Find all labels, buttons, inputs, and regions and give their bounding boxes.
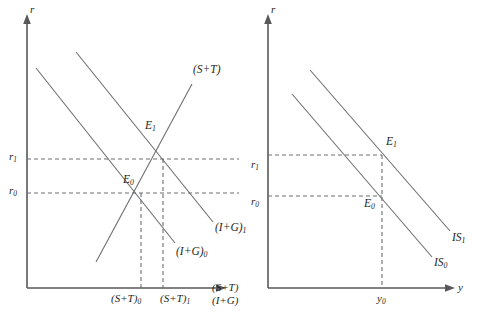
left-tick-r0: r0 xyxy=(9,185,17,198)
left-y-axis-arrowhead xyxy=(23,14,31,24)
right-curve-label-is-0: IS0 xyxy=(434,257,448,270)
right-curve-label-is-1: IS1 xyxy=(452,232,466,245)
diagram-vector-layer xyxy=(0,0,485,317)
right-x-axis-arrowhead xyxy=(445,284,455,292)
left-curve-label-i-plus-g-0: (I+G)0 xyxy=(176,246,207,259)
right-panel-guides xyxy=(268,155,382,288)
right-tick-r1: r1 xyxy=(251,159,259,172)
left-panel-curves xyxy=(36,52,213,262)
left-y-axis-label: r xyxy=(30,4,34,15)
left-tick-st1: (S+T)1 xyxy=(160,293,190,306)
right-panel-curves xyxy=(292,70,450,257)
right-y-axis-label: r xyxy=(271,4,275,15)
left-curve-label-i-plus-g-1: (I+G)1 xyxy=(215,222,246,235)
curve-s-plus-t xyxy=(96,84,192,262)
left-x-axis-label-line1: (S+T) xyxy=(212,282,238,293)
left-equilibrium-e1: E1 xyxy=(145,120,156,133)
right-y-axis-arrowhead xyxy=(264,14,272,24)
left-x-axis-label-line2: (I+G) xyxy=(212,295,238,306)
right-x-axis-label: y xyxy=(458,282,463,293)
curve-i-plus-g-1 xyxy=(76,52,213,222)
figure-canvas: r r1 r0 (S+T)0 (S+T)1 (S+T) (I+G) E1 E0 … xyxy=(0,0,485,317)
right-equilibrium-e1: E1 xyxy=(386,136,397,149)
right-tick-y0: y0 xyxy=(377,293,386,306)
right-tick-r0: r0 xyxy=(251,196,259,209)
left-tick-st0: (S+T)0 xyxy=(111,293,141,306)
left-curve-label-s-plus-t: (S+T) xyxy=(193,64,221,76)
curve-is-0 xyxy=(292,94,432,257)
curve-i-plus-g-0 xyxy=(36,68,175,243)
left-tick-r1: r1 xyxy=(9,151,17,164)
left-equilibrium-e0: E0 xyxy=(123,174,134,187)
curve-is-1 xyxy=(310,70,450,231)
right-equilibrium-e0: E0 xyxy=(364,198,375,211)
